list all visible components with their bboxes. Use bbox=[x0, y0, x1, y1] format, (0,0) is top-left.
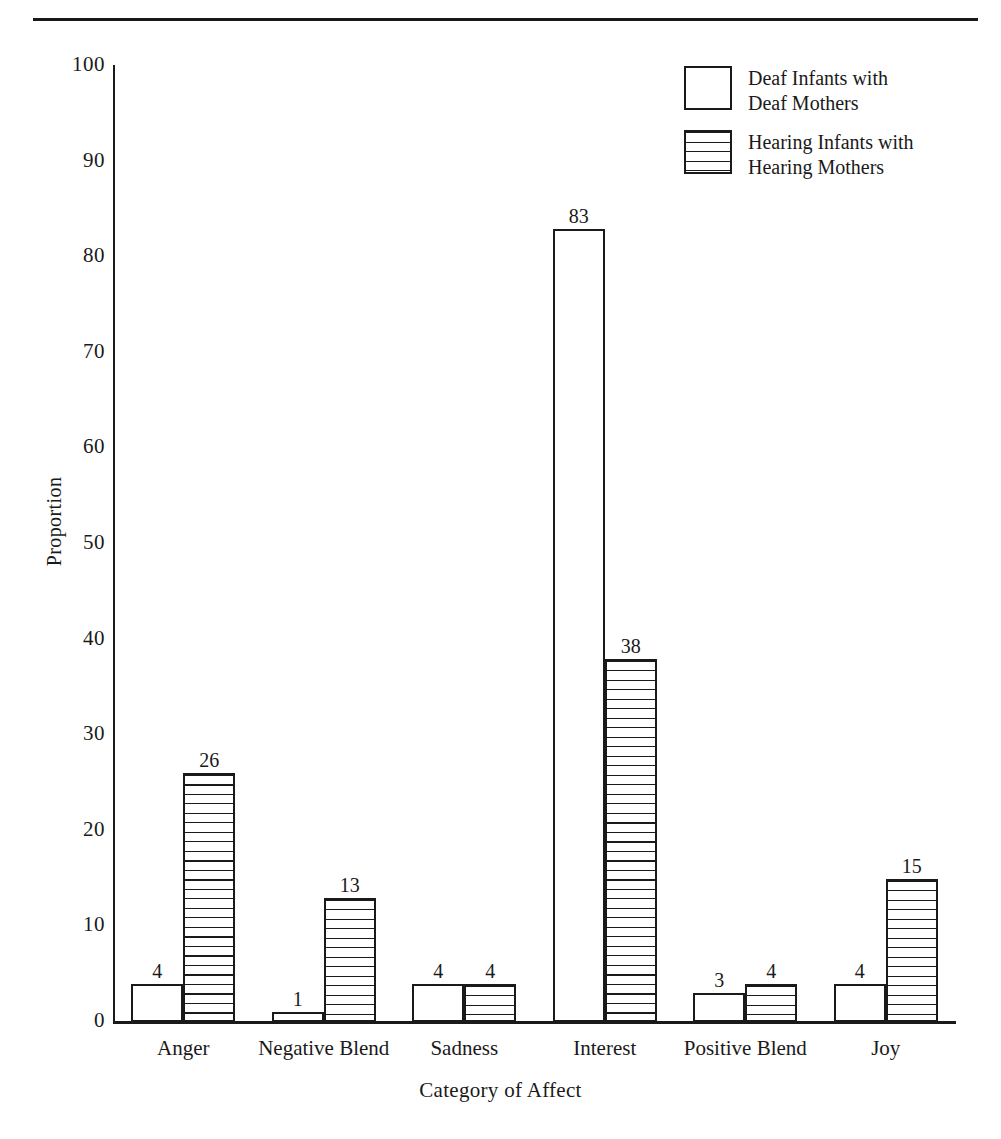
y-tick-label: 80 bbox=[45, 245, 105, 266]
x-category-label-sadness: Sadness bbox=[394, 1036, 535, 1060]
bar-interest-deaf: 83 bbox=[553, 229, 605, 1022]
bar-negative-blend-deaf: 1 bbox=[272, 1012, 324, 1022]
figure-container: 0102030405060708090100 Proportion 426113… bbox=[0, 0, 1001, 1139]
x-category-label-joy: Joy bbox=[816, 1036, 957, 1060]
y-tick-label: 10 bbox=[45, 914, 105, 935]
bar-value-label: 13 bbox=[340, 875, 360, 895]
bar-positive-blend-deaf: 3 bbox=[693, 993, 745, 1022]
bar-value-label: 38 bbox=[621, 636, 641, 656]
bar-value-label: 83 bbox=[569, 206, 589, 226]
bar-value-label: 26 bbox=[199, 750, 219, 770]
bar-value-label: 4 bbox=[855, 961, 865, 981]
x-axis-title: Category of Affect bbox=[0, 1078, 1001, 1103]
chart-legend: Deaf Infants with Deaf Mothers Hearing I… bbox=[684, 66, 984, 194]
bar-anger-deaf: 4 bbox=[131, 984, 183, 1022]
x-category-label-positive-blend: Positive Blend bbox=[675, 1036, 816, 1060]
bar-joy-hearing: 15 bbox=[886, 879, 938, 1022]
bar-joy-deaf: 4 bbox=[834, 984, 886, 1022]
top-horizontal-rule bbox=[33, 18, 978, 21]
bar-value-label: 15 bbox=[902, 856, 922, 876]
bar-value-label: 4 bbox=[152, 961, 162, 981]
y-tick-label: 70 bbox=[45, 341, 105, 362]
y-tick-label: 100 bbox=[45, 54, 105, 75]
plot-area: 42611344833834415 bbox=[113, 65, 956, 1022]
legend-swatch-white bbox=[684, 66, 732, 110]
legend-item-deaf: Deaf Infants with Deaf Mothers bbox=[684, 66, 984, 116]
bar-anger-hearing: 26 bbox=[183, 773, 235, 1022]
y-tick-label: 90 bbox=[45, 150, 105, 171]
y-tick-label: 0 bbox=[45, 1010, 105, 1031]
bar-value-label: 4 bbox=[766, 961, 776, 981]
y-tick-label: 30 bbox=[45, 723, 105, 744]
bar-value-label: 4 bbox=[433, 961, 443, 981]
bar-value-label: 3 bbox=[714, 970, 724, 990]
legend-label-hearing: Hearing Infants with Hearing Mothers bbox=[748, 130, 914, 180]
x-category-label-negative-blend: Negative Blend bbox=[254, 1036, 395, 1060]
legend-swatch-striped bbox=[684, 130, 732, 174]
x-category-label-interest: Interest bbox=[535, 1036, 676, 1060]
bar-interest-hearing: 38 bbox=[605, 659, 657, 1022]
bar-sadness-hearing: 4 bbox=[464, 984, 516, 1022]
x-category-label-anger: Anger bbox=[113, 1036, 254, 1060]
legend-item-hearing: Hearing Infants with Hearing Mothers bbox=[684, 130, 984, 180]
y-axis-title: Proportion bbox=[43, 452, 66, 592]
bar-positive-blend-hearing: 4 bbox=[745, 984, 797, 1022]
bar-value-label: 4 bbox=[485, 961, 495, 981]
bar-value-label: 1 bbox=[293, 989, 303, 1009]
y-tick-label: 40 bbox=[45, 628, 105, 649]
bar-negative-blend-hearing: 13 bbox=[324, 898, 376, 1022]
y-tick-label: 20 bbox=[45, 819, 105, 840]
bar-sadness-deaf: 4 bbox=[412, 984, 464, 1022]
legend-label-deaf: Deaf Infants with Deaf Mothers bbox=[748, 66, 888, 116]
